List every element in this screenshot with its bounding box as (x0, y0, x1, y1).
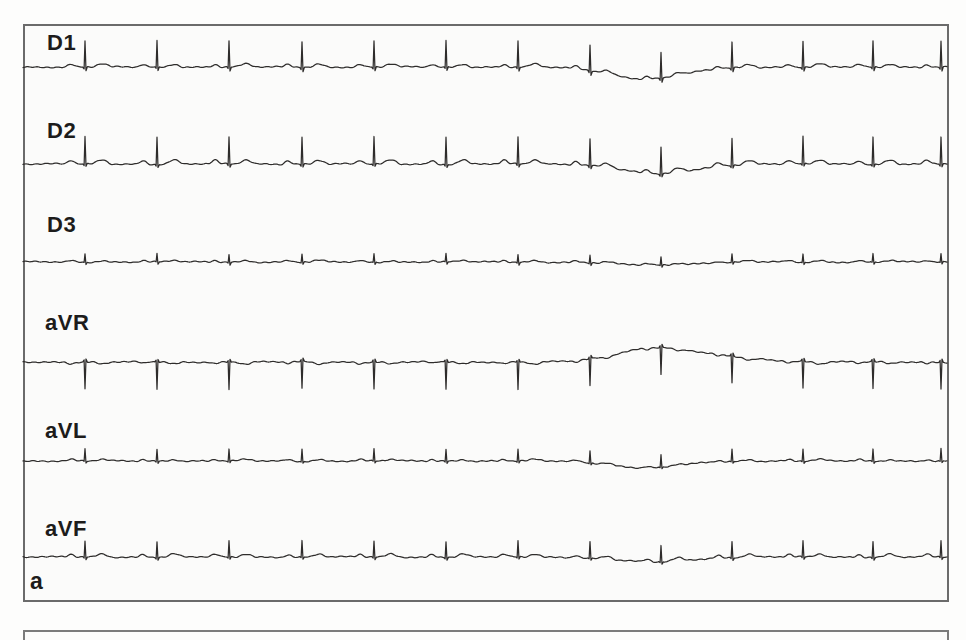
lead-label-avl: aVL (45, 420, 87, 442)
lead-label-d1: D1 (47, 32, 76, 54)
ecg-panel-a (23, 24, 949, 602)
lead-label-avf: aVF (45, 518, 87, 540)
lead-label-avr: aVR (45, 312, 89, 334)
lead-label-d2: D2 (47, 120, 76, 142)
ecg-panel-b-cropped (23, 630, 949, 640)
panel-letter-a: a (30, 570, 43, 593)
lead-label-d3: D3 (47, 214, 76, 236)
